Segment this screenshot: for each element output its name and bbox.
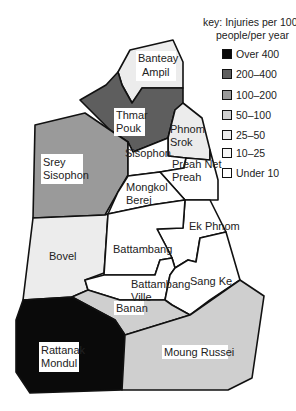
svg-text:Battambang: Battambang	[113, 243, 172, 255]
svg-text:Rattanak: Rattanak	[41, 344, 86, 356]
label-battambang: Battambang	[113, 243, 172, 255]
svg-text:Sisophon: Sisophon	[43, 169, 89, 181]
swatch-icon	[222, 49, 232, 59]
key-item-200-400: 200–400	[222, 68, 277, 80]
key-item-under-10: Under 10	[222, 167, 279, 179]
svg-text:Srok: Srok	[170, 136, 193, 148]
svg-text:Banan: Banan	[116, 302, 148, 314]
label-moung-russei: Moung Russei	[162, 345, 234, 359]
svg-text:Battambang: Battambang	[131, 278, 190, 290]
svg-text:Srey: Srey	[43, 156, 66, 168]
key-item-25-50: 25–50	[222, 129, 265, 141]
key-item-100-200: 100–200	[222, 89, 277, 101]
key-label: Under 10	[236, 167, 279, 179]
key-item-50-100: 50–100	[222, 109, 271, 121]
swatch-icon	[222, 90, 232, 100]
svg-text:Moung Russei: Moung Russei	[164, 346, 234, 358]
label-banteay-ampil: Banteay Ampil	[136, 51, 179, 81]
key-label: 25–50	[236, 129, 265, 141]
svg-text:Ek Phnom: Ek Phnom	[189, 220, 240, 232]
label-srey-sisophon: Srey Sisophon	[41, 154, 89, 184]
svg-text:Mongkol: Mongkol	[126, 181, 168, 193]
svg-text:Banteay: Banteay	[138, 52, 179, 64]
key-item-10-25: 10–25	[222, 147, 265, 159]
swatch-icon	[222, 69, 232, 79]
key-label: Over 400	[236, 48, 279, 60]
key-label: 100–200	[236, 89, 277, 101]
key-item-over-400: Over 400	[222, 48, 279, 60]
label-rattanak-mondul: Rattanak Mondul	[39, 342, 86, 372]
key-label: 200–400	[236, 68, 277, 80]
label-ek-phnom: Ek Phnom	[189, 220, 240, 232]
svg-text:Ampil: Ampil	[142, 66, 170, 78]
swatch-icon	[222, 168, 232, 178]
label-sang-ke: Sang Ke	[190, 275, 232, 287]
key-title-line1: key: Injuries per 100,000	[203, 16, 283, 29]
svg-text:Mondul: Mondul	[41, 357, 77, 369]
svg-text:Berei: Berei	[126, 194, 152, 206]
svg-text:Thmar: Thmar	[116, 109, 148, 121]
svg-text:Sang Ke: Sang Ke	[190, 275, 232, 287]
svg-text:Pouk: Pouk	[116, 122, 142, 134]
svg-text:Sisophon: Sisophon	[125, 147, 171, 159]
key-title: key: Injuries per 100,000 people/per yea…	[203, 16, 283, 42]
swatch-icon	[222, 148, 232, 158]
svg-text:Bovel: Bovel	[49, 250, 77, 262]
key-title-line2: people/per year	[203, 29, 283, 42]
swatch-icon	[222, 130, 232, 140]
label-bovel: Bovel	[49, 250, 77, 262]
label-banan: Banan	[114, 301, 148, 315]
key-label: 10–25	[236, 147, 265, 159]
svg-text:Phnom: Phnom	[170, 123, 205, 135]
svg-text:Preah Net: Preah Net	[172, 158, 222, 170]
province-map: Banteay Ampil Thmar Pouk Phnom Srok Srey…	[0, 0, 296, 411]
svg-text:Preah: Preah	[172, 171, 201, 183]
label-sisophon: Sisophon	[125, 147, 171, 159]
swatch-icon	[222, 110, 232, 120]
key-label: 50–100	[236, 109, 271, 121]
label-thmar-pouk: Thmar Pouk	[114, 108, 148, 136]
